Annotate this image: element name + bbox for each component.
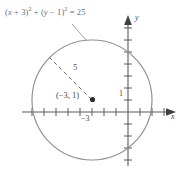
equation-leader-line (72, 24, 87, 41)
graph-canvas (0, 0, 179, 169)
circle-equation-label: (x + 3)2 + (y − 1)2 = 25 (5, 8, 86, 17)
x-axis-label: x (171, 113, 175, 121)
equation-plus-3: + 3 (12, 7, 26, 17)
x-tick-label-minus-3: −3 (81, 115, 90, 123)
y-tick-label-1: 1 (119, 90, 123, 98)
y-axis-label: y (135, 14, 139, 22)
circle-graph-figure: (x + 3)2 + (y − 1)2 = 25 y x 5 (−3, 1) −… (0, 0, 179, 169)
equation-minus-1: − 1 (48, 7, 62, 17)
equation-middle: + ( (32, 7, 44, 17)
center-point-dot (90, 97, 95, 102)
center-coordinate-label: (−3, 1) (56, 91, 79, 100)
radius-length-label: 5 (73, 63, 77, 72)
y-axis-arrowhead (124, 15, 132, 25)
equation-equals-25: = 25 (67, 7, 85, 17)
